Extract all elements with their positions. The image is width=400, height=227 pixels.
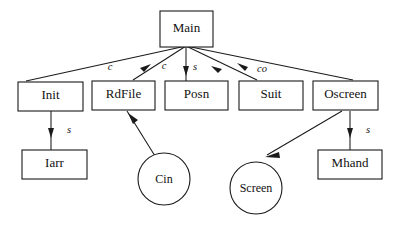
module-dependency-diagram: c c s co (0, 0, 400, 227)
edge-label-iarr: s (67, 124, 71, 135)
edge-cin-rdfile (127, 111, 155, 156)
node-iarr-label: Iarr (45, 155, 64, 170)
node-layer: Main Init RdFile Posn Suit Oscreen (18, 11, 382, 214)
edge-label-posn: c (162, 60, 167, 71)
edge-main-rdfile-line (133, 46, 186, 80)
edge-main-rdfile: c (108, 46, 186, 80)
node-suit-label: Suit (261, 86, 282, 101)
edge-main-oscreen-arrowhead (237, 63, 248, 71)
edge-main-suit: s (186, 46, 257, 80)
node-screen-label: Screen (240, 181, 273, 195)
node-oscreen-label: Oscreen (324, 86, 367, 101)
edge-label-rdfile: c (108, 61, 113, 72)
node-oscreen[interactable]: Oscreen (313, 81, 378, 110)
node-mhand-label: Mhand (332, 155, 369, 170)
node-cin-label: Cin (155, 172, 172, 186)
node-screen[interactable]: Screen (230, 162, 282, 214)
edge-main-oscreen: co (186, 46, 353, 80)
node-suit[interactable]: Suit (239, 81, 303, 110)
edge-oscreen-mhand: s (347, 111, 370, 150)
edge-main-posn: c (162, 46, 189, 81)
node-rdfile-label: RdFile (106, 86, 142, 101)
node-posn-label: Posn (184, 86, 210, 101)
node-mhand[interactable]: Mhand (318, 150, 382, 179)
edge-label-mhand: s (366, 124, 370, 135)
edge-cin-rdfile-arrowhead (128, 113, 138, 124)
node-main[interactable]: Main (160, 11, 213, 47)
node-cin[interactable]: Cin (138, 153, 190, 205)
node-iarr[interactable]: Iarr (22, 150, 87, 179)
node-rdfile[interactable]: RdFile (92, 81, 155, 110)
edge-oscreen-mhand-arrowhead (347, 128, 353, 138)
edge-main-posn-arrowhead (183, 66, 189, 76)
edge-main-rdfile-arrowhead (140, 64, 151, 72)
edge-init-iarr-arrowhead (48, 128, 54, 138)
edge-main-oscreen-line (186, 46, 353, 80)
edge-label-suit: s (193, 61, 197, 72)
edge-oscreen-screen-line (267, 111, 342, 155)
edge-main-suit-arrowhead (211, 66, 222, 73)
edge-label-oscreen: co (257, 63, 267, 74)
edge-init-iarr: s (48, 111, 71, 150)
node-init-label: Init (41, 87, 59, 102)
node-init[interactable]: Init (18, 82, 83, 111)
diagram-canvas: c c s co (0, 0, 400, 227)
node-main-label: Main (173, 20, 201, 35)
node-posn[interactable]: Posn (165, 81, 228, 110)
